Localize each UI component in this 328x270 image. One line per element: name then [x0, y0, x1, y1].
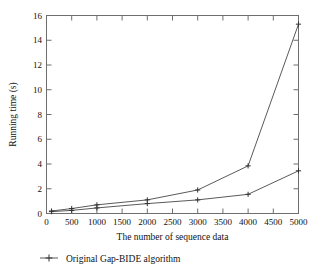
- series-line: [52, 24, 299, 211]
- x-axis-title: The number of sequence data: [117, 232, 230, 242]
- y-axis-ticks-right: [294, 40, 299, 213]
- line-chart: 0 2 4 6 8 10 12 14 16 0 500 1000 1500 20…: [0, 0, 328, 270]
- y-axis-title: Running time (s): [8, 82, 19, 146]
- data-point-plus-icon: [94, 205, 99, 210]
- x-tick-labels: 0 500 1000 1500 2000 2500 3000 3500 4000…: [44, 217, 308, 227]
- data-point-plus-icon: [246, 192, 251, 197]
- y-axis-ticks: [47, 16, 52, 214]
- x-tick-label: 1000: [88, 217, 107, 227]
- series-0: [49, 22, 301, 214]
- data-point-plus-icon: [246, 163, 251, 168]
- legend-entry-label: Original Gap-BIDE algorithm: [66, 254, 181, 264]
- x-tick-label: 3000: [189, 217, 208, 227]
- x-tick-label: 3500: [214, 217, 233, 227]
- data-series-layer: [49, 22, 301, 215]
- series-1: [49, 168, 301, 214]
- x-tick-label: 500: [65, 217, 79, 227]
- data-point-plus-icon: [145, 201, 150, 206]
- y-tick-label: 8: [38, 110, 43, 120]
- y-tick-label: 12: [33, 60, 42, 70]
- y-tick-label: 16: [33, 11, 43, 21]
- y-tick-label: 4: [38, 159, 43, 169]
- y-tick-label: 6: [38, 134, 43, 144]
- y-tick-label: 10: [33, 85, 43, 95]
- x-tick-label: 5000: [290, 217, 309, 227]
- data-point-plus-icon: [296, 168, 301, 173]
- x-tick-label: 4000: [239, 217, 258, 227]
- x-tick-label: 2500: [164, 217, 183, 227]
- x-tick-label: 1500: [113, 217, 132, 227]
- data-point-plus-icon: [195, 197, 200, 202]
- chart-figure: 0 2 4 6 8 10 12 14 16 0 500 1000 1500 20…: [0, 0, 328, 270]
- x-axis-ticks: [47, 16, 299, 214]
- y-tick-label: 0: [38, 209, 43, 219]
- series-line: [52, 171, 299, 212]
- x-tick-label: 0: [44, 217, 49, 227]
- x-tick-label: 4500: [264, 217, 283, 227]
- data-point-plus-icon: [296, 22, 301, 27]
- y-tick-label: 2: [38, 184, 43, 194]
- data-point-plus-icon: [195, 187, 200, 192]
- plus-icon: [46, 255, 53, 262]
- y-tick-labels: 0 2 4 6 8 10 12 14 16: [33, 11, 43, 219]
- legend: Original Gap-BIDE algorithm: [40, 254, 181, 264]
- y-tick-label: 14: [33, 35, 43, 45]
- x-tick-label: 2000: [138, 217, 157, 227]
- plot-frame: [47, 16, 299, 214]
